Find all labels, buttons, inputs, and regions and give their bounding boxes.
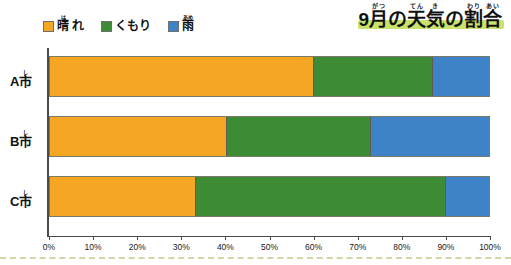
x-axis-tick xyxy=(49,236,50,240)
x-axis-tick xyxy=(314,236,315,240)
title-base-char: 気 xyxy=(426,10,445,30)
x-axis-tick xyxy=(358,236,359,240)
x-axis-tick-label: 30% xyxy=(173,242,190,252)
title-base-char: の xyxy=(388,10,407,30)
title-base-char: 割 xyxy=(464,10,483,30)
category-base-char: 市 xyxy=(19,75,32,89)
stacked-bar-chart: 0%10%20%30%40%50%60%70%80%90%100%Aし市Bし市C… xyxy=(0,46,511,246)
legend-item-cloudy: くもり xyxy=(101,20,151,33)
x-axis-tick xyxy=(137,236,138,240)
title-char: がつ月 xyxy=(369,3,388,30)
category-letter: C xyxy=(10,195,19,209)
category-kanji: し市 xyxy=(19,130,32,149)
x-axis-tick xyxy=(402,236,403,240)
bar-segment-sunny xyxy=(50,177,195,216)
x-axis-tick xyxy=(93,236,94,240)
title-char: の xyxy=(445,2,464,30)
legend-label-sunny: は晴 xyxy=(57,15,69,33)
category-letter: A xyxy=(10,75,19,89)
x-axis-tick-label: 50% xyxy=(261,242,278,252)
bar-row xyxy=(49,56,490,97)
legend-label-tail: れ xyxy=(72,20,84,33)
title-base-char: の xyxy=(445,10,464,30)
bar-segment-cloudy xyxy=(195,177,445,216)
chart-page: 9がつ月のてん天き気のわり割あい合 は晴れくもりあめ雨 0%10%20%30%4… xyxy=(0,0,511,265)
bar-segment-cloudy xyxy=(313,57,432,96)
title-char: てん天 xyxy=(407,3,426,30)
category-kanji: し市 xyxy=(19,190,32,209)
bottom-dashed-divider xyxy=(0,257,511,259)
bar-segment-rain xyxy=(445,177,489,216)
x-axis-tick-label: 40% xyxy=(217,242,234,252)
category-base-char: 市 xyxy=(19,135,32,149)
legend-swatch-cloudy xyxy=(101,21,112,32)
x-axis-tick-label: 0% xyxy=(43,242,55,252)
title-char: き気 xyxy=(426,3,445,30)
title-char: の xyxy=(388,2,407,30)
legend-swatch-sunny xyxy=(43,21,54,32)
title-base-char: 天 xyxy=(407,10,426,30)
legend-item-sunny: は晴れ xyxy=(43,15,84,33)
x-axis-tick-label: 20% xyxy=(129,242,146,252)
legend-base-char: 雨 xyxy=(182,20,194,33)
bar-segment-rain xyxy=(432,57,489,96)
category-letter: B xyxy=(10,135,19,149)
title-char: 9 xyxy=(358,2,369,30)
x-axis-tick-label: 100% xyxy=(479,242,501,252)
category-label-A市: Aし市 xyxy=(10,70,32,89)
title-text: 9がつ月のてん天き気のわり割あい合 xyxy=(358,2,502,30)
bar-row xyxy=(49,116,490,157)
x-axis-tick-label: 90% xyxy=(437,242,454,252)
legend-swatch-rain xyxy=(168,21,179,32)
x-axis-tick xyxy=(225,236,226,240)
title-base-char: 9 xyxy=(358,10,369,30)
title-base-char: 合 xyxy=(483,10,502,30)
bar-segment-cloudy xyxy=(226,117,371,156)
page-title: 9がつ月のてん天き気のわり割あい合 xyxy=(358,2,502,30)
category-base-char: 市 xyxy=(19,195,32,209)
legend-base-char: 晴 xyxy=(57,20,69,33)
legend-item-rain: あめ雨 xyxy=(168,15,194,33)
title-char: あい合 xyxy=(483,3,502,30)
x-axis-tick-label: 70% xyxy=(349,242,366,252)
x-axis-tick xyxy=(181,236,182,240)
x-axis-tick xyxy=(270,236,271,240)
bar-segment-rain xyxy=(370,117,489,156)
title-char: わり割 xyxy=(464,3,483,30)
x-axis-tick-label: 10% xyxy=(85,242,102,252)
category-kanji: し市 xyxy=(19,70,32,89)
category-label-C市: Cし市 xyxy=(10,190,32,209)
bar-segment-sunny xyxy=(50,57,313,96)
legend-label-rain: あめ雨 xyxy=(182,15,194,33)
x-axis-tick xyxy=(490,236,491,240)
legend-label-cloudy: くもり xyxy=(115,20,151,33)
title-base-char: 月 xyxy=(369,10,388,30)
x-axis-line xyxy=(47,236,490,237)
bar-segment-sunny xyxy=(50,117,226,156)
chart-legend: は晴れくもりあめ雨 xyxy=(43,15,194,33)
x-axis-tick-label: 60% xyxy=(305,242,322,252)
category-label-B市: Bし市 xyxy=(10,130,32,149)
x-axis-tick xyxy=(446,236,447,240)
x-axis-tick-label: 80% xyxy=(393,242,410,252)
bar-row xyxy=(49,176,490,217)
